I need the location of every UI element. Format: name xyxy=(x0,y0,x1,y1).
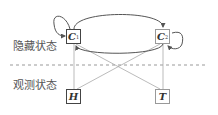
self-loop-c2 xyxy=(168,32,183,49)
diagram-canvas xyxy=(0,0,218,115)
node-c1: C1 xyxy=(66,29,81,44)
node-c2-label: C xyxy=(157,31,165,42)
edge-c1-to-c2 xyxy=(74,14,163,29)
node-c1-label: C xyxy=(68,31,76,42)
node-c2-sub: 2 xyxy=(165,34,168,40)
node-c2: C2 xyxy=(155,29,170,44)
node-h-label: H xyxy=(69,91,78,102)
hidden-state-label: 隐藏状态 xyxy=(13,37,57,53)
node-c1-sub: 1 xyxy=(76,34,79,40)
observed-state-label: 观测状态 xyxy=(13,76,57,92)
edge-c2-to-c1 xyxy=(76,44,163,53)
node-t: T xyxy=(155,89,170,104)
node-h: H xyxy=(66,89,81,104)
node-t-label: T xyxy=(159,91,166,102)
